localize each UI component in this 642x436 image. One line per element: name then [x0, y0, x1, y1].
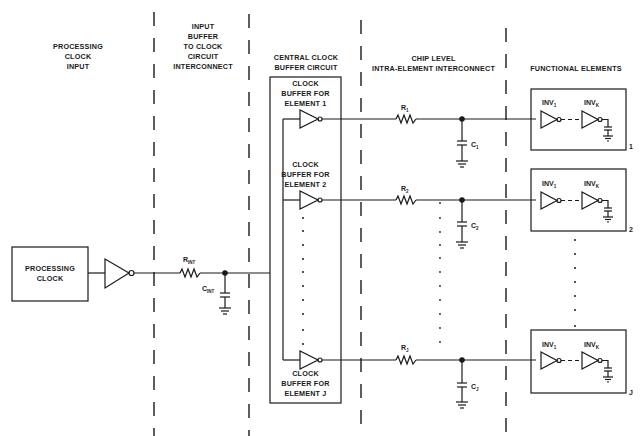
buffer-label-2: CLOCK BUFFER FOR ELEMENT 2 — [270, 160, 341, 190]
el1-inv1-label: INV1 — [542, 99, 556, 106]
processing-clock-label: PROCESSING CLOCK — [12, 264, 88, 284]
c1-label: C1 — [471, 141, 479, 148]
buffer-label-j: CLOCK BUFFER FOR ELEMENT J — [270, 369, 341, 399]
ellipsis-dots — [302, 202, 576, 345]
section-central-clock: CENTRAL CLOCK BUFFER CIRCUIT — [256, 53, 356, 73]
input-buffer-icon — [105, 259, 129, 288]
el1-invk-label: INVK — [584, 99, 599, 106]
section-chip-level: CHIP LEVEL INTRA-ELEMENT INTERCONNECT — [366, 54, 501, 74]
el2-inv1-label: INV1 — [542, 180, 556, 187]
elj-index: J — [629, 389, 633, 396]
functional-element-2 — [531, 169, 626, 231]
cint-label: CINT — [202, 285, 214, 292]
el2-index: 2 — [629, 226, 633, 233]
section-functional-elements: FUNCTIONAL ELEMENTS — [512, 64, 640, 74]
cj-label: CJ — [471, 383, 479, 390]
resistor-rint-icon — [180, 269, 200, 277]
buffer-label-1: CLOCK BUFFER FOR ELEMENT 1 — [270, 79, 341, 109]
section-processing-clock-input: PROCESSING CLOCK INPUT — [38, 42, 118, 72]
el1-index: 1 — [629, 143, 633, 150]
el2-invk-label: INVK — [584, 180, 599, 187]
r1-label: R1 — [401, 104, 409, 111]
r2-label: R2 — [401, 185, 409, 192]
section-input-buffer: INPUT BUFFER TO CLOCK CIRCUIT INTERCONNE… — [163, 22, 243, 72]
capacitor-c1-icon — [456, 117, 468, 167]
capacitor-c2-icon — [456, 198, 468, 248]
functional-element-j — [531, 330, 626, 393]
elj-invk-label: INVK — [584, 341, 599, 348]
elj-inv1-label: INV1 — [542, 341, 556, 348]
capacitor-cj-icon — [456, 358, 468, 408]
rj-label: RJ — [401, 344, 409, 351]
rint-label: RINT — [183, 256, 195, 263]
c2-label: C2 — [471, 222, 479, 229]
